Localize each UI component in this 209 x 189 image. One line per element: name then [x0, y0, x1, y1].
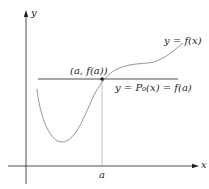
x-axis-label: x	[201, 160, 207, 170]
curve-label: y = f(x)	[164, 36, 202, 46]
y-axis-label: y	[31, 8, 37, 18]
x-axis-arrow-icon	[192, 164, 199, 168]
point-a-fa	[100, 77, 104, 81]
y-axis-arrow-icon	[24, 10, 28, 17]
constant-line-label: y = P₀(x) = f(a)	[115, 83, 192, 93]
x-tick-label-a: a	[99, 170, 105, 180]
taylor-zero-degree-diagram	[0, 0, 209, 189]
point-label: (a, f(a))	[70, 66, 108, 76]
